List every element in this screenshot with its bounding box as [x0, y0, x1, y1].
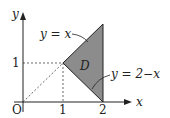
region-label: D [79, 59, 90, 73]
y-tick-1: 1 [12, 56, 20, 70]
y-axis-arrow-icon [20, 12, 26, 20]
curve-label-y-equals-2-minus-x: y = 2−x [110, 67, 160, 81]
x-axis-arrow-icon [124, 99, 132, 105]
origin-label: O [12, 103, 22, 117]
x-tick-1: 1 [59, 103, 67, 117]
curve-label-y-equals-x: y = x [39, 27, 71, 41]
dashed-line-y-equals-x-lower [23, 63, 63, 102]
x-tick-2: 2 [99, 103, 107, 117]
y-axis-label: y [11, 7, 19, 21]
x-axis-label: x [136, 95, 143, 109]
region-diagram: x y O 1 2 1 D y = x y = 2−x [0, 0, 170, 118]
